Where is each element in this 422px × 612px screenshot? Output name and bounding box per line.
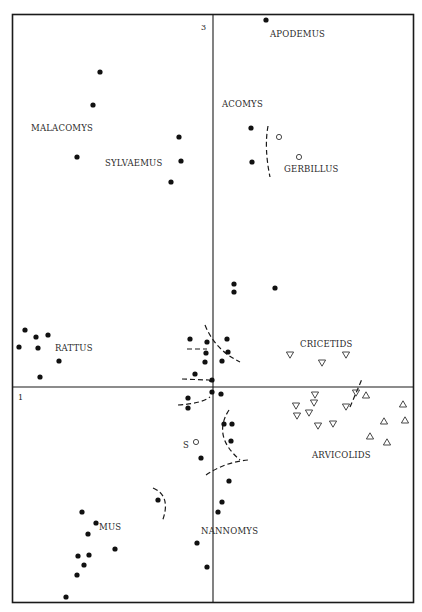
data-point-filled-circle bbox=[226, 478, 231, 483]
data-point-down-triangle bbox=[286, 352, 293, 358]
data-point-filled-circle bbox=[168, 179, 173, 184]
data-point-filled-circle bbox=[209, 389, 214, 394]
axis-label-vertical: 3 bbox=[201, 23, 206, 32]
group-label-nannomys: NANNOMYS bbox=[201, 526, 258, 536]
scatter-plot: 3 1 APODEMUSACOMYSMALACOMYSSYLVAEMUSGERB… bbox=[0, 0, 422, 612]
data-point-filled-circle bbox=[185, 395, 190, 400]
data-point-filled-circle bbox=[63, 594, 68, 599]
data-point-open-circle bbox=[276, 134, 281, 139]
data-point-filled-circle bbox=[209, 377, 214, 382]
data-point-up-triangle bbox=[366, 433, 373, 439]
data-point-up-triangle bbox=[380, 418, 387, 424]
group-boundary-dashed bbox=[182, 379, 212, 384]
data-point-filled-circle bbox=[16, 344, 21, 349]
data-point-filled-circle bbox=[229, 421, 234, 426]
group-label-apodemus: APODEMUS bbox=[269, 29, 325, 39]
data-point-filled-circle bbox=[74, 154, 79, 159]
data-point-up-triangle bbox=[401, 417, 408, 423]
data-point-filled-circle bbox=[272, 285, 277, 290]
group-label-mus: MUS bbox=[99, 522, 121, 532]
data-point-up-triangle bbox=[399, 401, 406, 407]
data-point-filled-circle bbox=[231, 289, 236, 294]
data-point-filled-circle bbox=[85, 531, 90, 536]
group-label-acomys: ACOMYS bbox=[221, 99, 263, 109]
data-point-filled-circle bbox=[90, 102, 95, 107]
data-point-filled-circle bbox=[203, 350, 208, 355]
group-label-arvicolids: ARVICOLIDS bbox=[311, 450, 371, 460]
data-point-filled-circle bbox=[248, 125, 253, 130]
group-label-rattus: RATTUS bbox=[55, 343, 93, 353]
data-point-open-circle bbox=[296, 154, 301, 159]
data-point-down-triangle bbox=[292, 403, 299, 409]
data-point-filled-circle bbox=[194, 540, 199, 545]
data-point-filled-circle bbox=[218, 391, 223, 396]
data-point-filled-circle bbox=[219, 358, 224, 363]
group-label-gerbillus: GERBILLUS bbox=[284, 164, 339, 174]
data-point-up-triangle bbox=[383, 439, 390, 445]
data-point-filled-circle bbox=[219, 499, 224, 504]
data-point-filled-circle bbox=[249, 159, 254, 164]
data-point-filled-circle bbox=[176, 134, 181, 139]
group-boundary-dashed bbox=[206, 460, 248, 475]
group-label-sylvaemus: SYLVAEMUS bbox=[105, 158, 162, 168]
group-boundary-dashed bbox=[350, 379, 362, 407]
axis-label-horizontal: 1 bbox=[18, 393, 23, 402]
data-point-filled-circle bbox=[45, 332, 50, 337]
data-point-down-triangle bbox=[318, 360, 325, 366]
data-point-filled-circle bbox=[35, 345, 40, 350]
data-point-filled-circle bbox=[56, 358, 61, 363]
data-point-filled-circle bbox=[112, 546, 117, 551]
group-boundaries bbox=[153, 126, 362, 522]
data-point-filled-circle bbox=[81, 562, 86, 567]
data-point-open-circle bbox=[193, 439, 198, 444]
data-point-filled-circle bbox=[79, 509, 84, 514]
data-point-down-triangle bbox=[311, 392, 318, 398]
data-point-filled-circle bbox=[33, 334, 38, 339]
data-point-down-triangle bbox=[342, 404, 349, 410]
data-point-filled-circle bbox=[37, 374, 42, 379]
data-point-filled-circle bbox=[86, 552, 91, 557]
data-point-down-triangle bbox=[305, 410, 312, 416]
group-boundary-dashed bbox=[178, 397, 210, 405]
data-point-filled-circle bbox=[22, 327, 27, 332]
data-point-filled-circle bbox=[225, 349, 230, 354]
data-point-filled-circle bbox=[97, 69, 102, 74]
data-point-filled-circle bbox=[228, 438, 233, 443]
data-point-filled-circle bbox=[224, 336, 229, 341]
data-point-down-triangle bbox=[329, 421, 336, 427]
data-point-filled-circle bbox=[178, 158, 183, 163]
data-point-up-triangle bbox=[362, 392, 369, 398]
group-boundary-dashed bbox=[266, 126, 270, 177]
data-point-filled-circle bbox=[187, 336, 192, 341]
data-point-filled-circle bbox=[231, 281, 236, 286]
data-point-filled-circle bbox=[204, 339, 209, 344]
data-point-filled-circle bbox=[204, 564, 209, 569]
data-point-down-triangle bbox=[310, 400, 317, 406]
data-point-filled-circle bbox=[221, 421, 226, 426]
group-label-s: S bbox=[183, 440, 189, 450]
group-boundary-dashed bbox=[153, 488, 165, 522]
data-point-filled-circle bbox=[192, 371, 197, 376]
data-point-down-triangle bbox=[314, 423, 321, 429]
data-point-down-triangle bbox=[293, 413, 300, 419]
data-point-filled-circle bbox=[155, 497, 160, 502]
data-point-filled-circle bbox=[93, 520, 98, 525]
group-boundary-dashed bbox=[223, 410, 240, 460]
data-point-filled-circle bbox=[215, 509, 220, 514]
data-point-filled-circle bbox=[202, 359, 207, 364]
data-point-down-triangle bbox=[352, 390, 359, 396]
data-point-filled-circle bbox=[75, 553, 80, 558]
data-point-filled-circle bbox=[74, 572, 79, 577]
data-point-down-triangle bbox=[342, 352, 349, 358]
group-boundary-dashed bbox=[205, 325, 240, 362]
data-point-filled-circle bbox=[185, 405, 190, 410]
group-label-malacomys: MALACOMYS bbox=[31, 123, 93, 133]
group-label-cricetids: CRICETIDS bbox=[300, 339, 352, 349]
data-point-filled-circle bbox=[198, 455, 203, 460]
data-point-filled-circle bbox=[263, 17, 268, 22]
